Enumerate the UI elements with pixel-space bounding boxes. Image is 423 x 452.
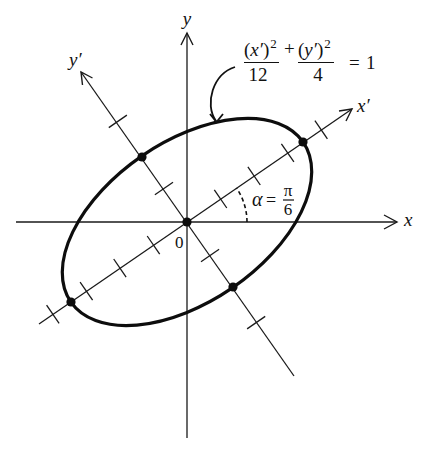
rotation-angle-arc bbox=[236, 188, 247, 222]
equation-equals: = bbox=[349, 52, 360, 73]
close-paren: ) bbox=[263, 39, 269, 61]
x-axis-label: x bbox=[403, 209, 413, 230]
x-prime-tick-mark bbox=[80, 282, 93, 300]
x-prime-axis-label: x′ bbox=[356, 95, 370, 116]
angle-equals: = bbox=[266, 190, 276, 210]
y-prime-tick-mark bbox=[247, 316, 265, 329]
x-prime-vertex-negative-point bbox=[66, 297, 75, 306]
x-prime-tick-mark bbox=[214, 190, 227, 208]
y-axis-label: y bbox=[181, 8, 192, 29]
y-prime-vertex-negative-point bbox=[228, 282, 237, 291]
equation-plus: + bbox=[284, 38, 295, 59]
equation-numerator-2: (y′)2 bbox=[298, 36, 331, 61]
x-prime-tick-mark bbox=[114, 259, 126, 277]
variable-y-prime: y′ bbox=[302, 39, 317, 60]
x-prime-tick-mark bbox=[47, 305, 60, 323]
x-prime-tick-mark bbox=[248, 167, 260, 185]
y-prime-vertex-positive-point bbox=[137, 152, 146, 161]
exponent: 2 bbox=[270, 36, 277, 51]
y-prime-tick-mark bbox=[155, 182, 173, 195]
origin-label: 0 bbox=[175, 233, 184, 252]
ellipse-equation: (x′)2 12 + (y′)2 4 = 1 bbox=[244, 36, 376, 85]
alpha-symbol: α bbox=[252, 188, 263, 210]
rotated-ellipse-diagram: y x x′ y′ 0 (x′)2 12 + (y′)2 4 = 1 α = π… bbox=[0, 0, 423, 452]
variable-x-prime: x′ bbox=[249, 39, 263, 60]
rotation-angle-label: α = π 6 bbox=[252, 181, 294, 219]
y-prime-tick-mark bbox=[201, 249, 219, 261]
equation-denominator-1: 12 bbox=[249, 64, 268, 85]
x-prime-tick-mark bbox=[315, 121, 328, 139]
origin-point bbox=[182, 217, 191, 226]
y-prime-axis-label: y′ bbox=[67, 49, 82, 70]
equation-numerator-1: (x′)2 bbox=[244, 36, 277, 61]
x-prime-tick-mark bbox=[281, 144, 294, 162]
exponent: 2 bbox=[324, 36, 331, 51]
pointer-curve bbox=[211, 67, 235, 121]
close-paren: ) bbox=[317, 39, 323, 61]
equation-rhs: 1 bbox=[366, 52, 376, 73]
equation-pointer bbox=[210, 67, 235, 122]
x-prime-tick-mark bbox=[147, 236, 160, 254]
angle-numerator-pi: π bbox=[284, 181, 293, 200]
x-axis bbox=[16, 215, 397, 229]
x-prime-vertex-positive-point bbox=[298, 137, 307, 146]
angle-denominator: 6 bbox=[284, 200, 293, 219]
equation-denominator-2: 4 bbox=[313, 64, 323, 85]
